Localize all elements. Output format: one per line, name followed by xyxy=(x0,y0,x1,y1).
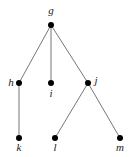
node-i xyxy=(48,80,54,86)
node-h xyxy=(16,80,22,86)
edge-j-m xyxy=(88,83,120,138)
tree-diagram: ghijklm xyxy=(0,0,130,157)
edge-j-l xyxy=(55,83,88,138)
edge-g-j xyxy=(51,25,88,83)
node-g xyxy=(48,22,54,28)
edge-g-h xyxy=(19,25,51,83)
node-label-j: j xyxy=(92,74,97,86)
node-label-m: m xyxy=(116,141,124,153)
tree-nodes xyxy=(16,22,123,141)
node-label-l: l xyxy=(53,141,56,153)
node-label-h: h xyxy=(8,76,14,88)
node-label-i: i xyxy=(49,87,52,99)
node-label-g: g xyxy=(48,4,54,16)
node-label-k: k xyxy=(17,141,23,153)
tree-labels: ghijklm xyxy=(8,4,124,153)
tree-edges xyxy=(19,25,120,138)
node-j xyxy=(85,80,91,86)
